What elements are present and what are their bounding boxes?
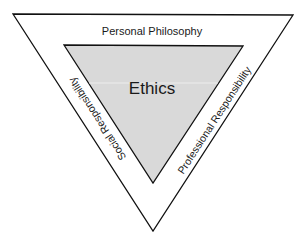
label-ethics: Ethics <box>129 79 175 98</box>
ethics-triangle-diagram: Personal Philosophy Ethics Social Respon… <box>0 0 306 245</box>
label-personal-philosophy: Personal Philosophy <box>102 25 203 37</box>
